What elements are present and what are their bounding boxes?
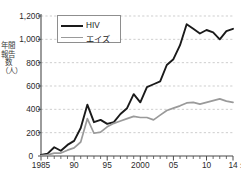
legend-swatch-line-icon (61, 25, 83, 27)
legend: HIVエイズ (57, 15, 121, 43)
y-tick-label-origin: 0 (28, 151, 33, 161)
legend-item-aids: エイズ (61, 32, 110, 43)
series-line-hiv (41, 24, 233, 155)
legend-swatch-line-icon (61, 37, 83, 38)
legend-label: HIV (86, 21, 100, 30)
legend-label: エイズ (86, 32, 110, 44)
series-line-aids (41, 99, 233, 156)
legend-item-hiv: HIV (61, 20, 100, 31)
line-chart: 年間報告数（人） 1,2001,000800600400200 19859095… (0, 0, 241, 175)
